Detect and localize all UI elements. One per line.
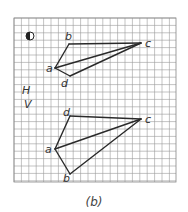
vertex-label-d: d — [63, 106, 71, 119]
vertex-label-c: c — [145, 113, 151, 126]
vertex-label-c: c — [145, 37, 151, 50]
vertex-label-a: a — [46, 62, 53, 75]
view-label-v: V — [24, 98, 33, 111]
edge-bc — [69, 43, 141, 44]
vertex-label-d: d — [61, 77, 69, 90]
first-angle-projection-icon — [26, 32, 34, 40]
vertex-label-b: b — [63, 172, 70, 185]
view-labels: HV — [22, 84, 33, 111]
edge-ab — [55, 149, 70, 174]
edge-ac — [55, 119, 141, 149]
grid-border — [14, 18, 176, 182]
top-view-triangle: abcd — [46, 30, 151, 90]
vertex-label-b: b — [65, 30, 72, 43]
view-label-h: H — [22, 84, 30, 97]
edge-ad — [55, 68, 70, 76]
vertex-label-a: a — [45, 143, 52, 156]
figure-caption: (b) — [86, 195, 103, 209]
graph-paper-grid — [14, 18, 176, 182]
projection-diagram: HV abcd abcd (b) — [0, 0, 188, 212]
